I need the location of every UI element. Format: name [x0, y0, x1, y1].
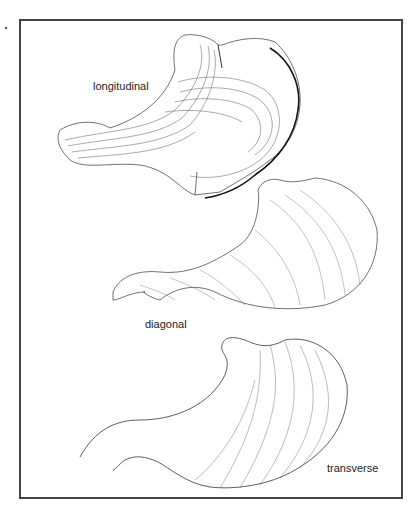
stomach-muscle-illustration [0, 0, 414, 520]
diagonal-stomach [113, 178, 377, 309]
label-longitudinal: longitudinal [93, 80, 149, 92]
label-diagonal: diagonal [145, 318, 187, 330]
transverse-stomach [80, 338, 347, 488]
label-transverse: transverse [327, 462, 378, 474]
longitudinal-stomach [58, 35, 300, 198]
